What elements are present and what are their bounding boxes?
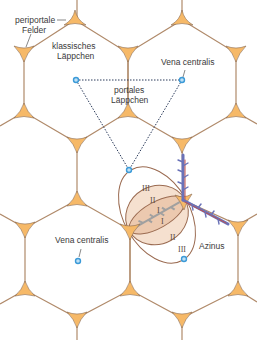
liver-lobule-diagram: periportale Felder klassisches Läppchen … xyxy=(0,0,257,340)
zone-1-label-top: I xyxy=(157,206,160,215)
portal-field xyxy=(228,281,248,296)
central-vein-dot xyxy=(127,168,132,173)
portal-field xyxy=(64,10,86,25)
central-vein-dot xyxy=(182,257,187,262)
acinus xyxy=(103,153,212,276)
portal-field xyxy=(67,191,87,206)
portal-lobule-label-2: Läppchen xyxy=(111,95,149,105)
central-vein-dot xyxy=(76,259,81,264)
portal-lobule-label-1: portales xyxy=(114,85,144,95)
central-vein-dot xyxy=(74,78,79,83)
zone-3-label-top: III xyxy=(142,184,150,193)
portal-field xyxy=(67,312,87,328)
portal-field xyxy=(226,103,246,118)
acinus-label: Azinus xyxy=(199,241,225,251)
portal-field xyxy=(67,137,87,153)
vena-centralis-label-top: Vena centralis xyxy=(161,57,214,67)
zone-3-label-bottom: III xyxy=(178,245,186,254)
zone-2-label-top: II xyxy=(150,196,156,205)
portal-field xyxy=(14,46,34,62)
portal-field xyxy=(118,103,138,118)
portal-field xyxy=(14,103,34,118)
portal-field xyxy=(228,220,248,236)
diagram-canvas: periportale Felder klassisches Läppchen … xyxy=(0,0,257,340)
portal-field xyxy=(15,222,35,238)
portal-field xyxy=(120,281,140,296)
classic-lobule-label-1: klassisches xyxy=(52,41,95,51)
portal-field xyxy=(226,46,246,62)
classic-lobule-label-2: Läppchen xyxy=(57,51,95,61)
portal-field xyxy=(172,137,192,153)
zone-1-label-bottom: I xyxy=(161,217,164,226)
portal-field xyxy=(172,312,192,328)
central-vein-dot xyxy=(180,78,185,83)
vena-centralis-label-bottom: Vena centralis xyxy=(55,235,108,245)
zone-2-label-bottom: II xyxy=(170,233,176,242)
portal-field xyxy=(118,46,138,62)
periportal-label-1: periportale xyxy=(15,15,55,25)
portal-field xyxy=(15,281,35,296)
portal-field xyxy=(171,10,193,25)
periportal-label-2: Felder xyxy=(22,25,46,35)
